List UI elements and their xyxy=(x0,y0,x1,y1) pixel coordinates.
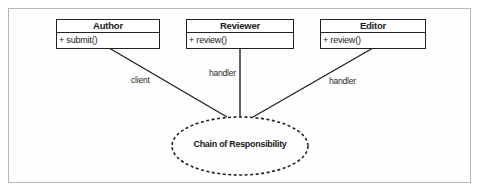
role-label-client: client xyxy=(131,75,150,85)
class-name: Reviewer xyxy=(187,20,293,33)
class-reviewer: Reviewer + review() xyxy=(186,19,294,49)
class-method: + review() xyxy=(321,33,425,47)
pattern-name: Chain of Responsibility xyxy=(172,139,308,149)
class-method: + submit() xyxy=(57,33,159,47)
class-name: Author xyxy=(57,20,159,33)
class-name: Editor xyxy=(321,20,425,33)
class-editor: Editor + review() xyxy=(320,19,426,49)
class-author: Author + submit() xyxy=(56,19,160,49)
role-label-reviewer-handler: handler xyxy=(209,68,236,78)
author-connector xyxy=(109,48,227,117)
class-method: + review() xyxy=(187,33,293,47)
role-label-editor-handler: handler xyxy=(329,76,356,86)
